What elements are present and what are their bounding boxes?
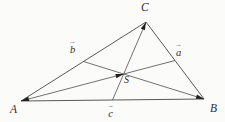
vector-letter: c <box>107 108 114 119</box>
figure-canvas: A B C S → b → a → c <box>0 0 225 122</box>
median-from-B <box>84 62 205 100</box>
median-from-C <box>113 22 147 100</box>
vector-arrow-icon: → <box>107 103 114 107</box>
vector-arrow-icon: → <box>175 42 182 46</box>
vertex-label-c: C <box>141 1 149 13</box>
vector-arrow-icon: → <box>69 39 76 43</box>
vector-letter: a <box>175 47 182 58</box>
median-from-A <box>21 61 175 102</box>
vector-letter: b <box>69 44 76 55</box>
vector-label-a: → a <box>175 42 182 58</box>
vector-label-c: → c <box>107 103 114 119</box>
centroid-label: S <box>124 74 129 85</box>
vertex-label-b: B <box>210 102 217 114</box>
vertex-label-a: A <box>10 103 17 115</box>
vector-label-b: → b <box>69 39 76 55</box>
arrowhead-at-A <box>21 97 29 101</box>
